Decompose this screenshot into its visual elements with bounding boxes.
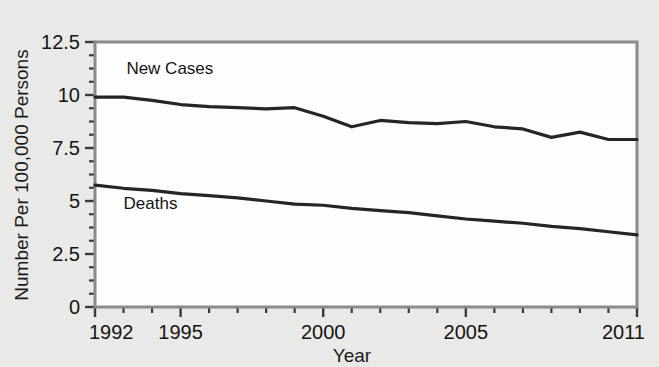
line-chart: 02.557.51012.5 19921995200020052011 New …: [0, 0, 659, 367]
chart-figure: 02.557.51012.5 19921995200020052011 New …: [0, 0, 659, 367]
x-tick-label: 1995: [158, 321, 203, 343]
y-tick-label: 7.5: [52, 137, 80, 159]
x-axis-title: Year: [333, 345, 372, 366]
x-tick-label: 2000: [301, 321, 346, 343]
series-label-deaths: Deaths: [124, 194, 178, 213]
series-label-new-cases: New Cases: [126, 59, 213, 78]
x-tick-label: 2011: [602, 321, 645, 343]
x-tick-label: 2005: [444, 321, 489, 343]
y-tick-label: 2.5: [52, 243, 80, 265]
y-axis-title: Number Per 100,000 Persons: [11, 49, 32, 300]
y-tick-label: 12.5: [41, 31, 80, 53]
y-tick-label: 0: [69, 296, 80, 318]
x-tick-label: 1992: [89, 321, 134, 343]
plot-area-background: [95, 42, 637, 307]
y-tick-label: 5: [69, 190, 80, 212]
y-tick-label: 10: [58, 84, 80, 106]
